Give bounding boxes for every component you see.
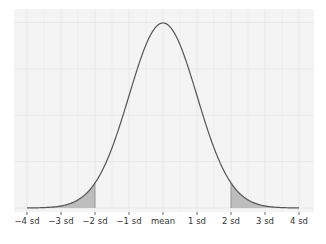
x-tick-label: 2 sd <box>222 216 240 226</box>
x-tick-label: 3 sd <box>256 216 274 226</box>
x-tick-label: −2 sd <box>82 216 107 226</box>
normal-distribution-chart: −4 sd−3 sd−2 sd−1 sdmean1 sd2 sd3 sd4 sd <box>0 0 326 244</box>
x-tick-label: 1 sd <box>188 216 206 226</box>
x-tick-label: −1 sd <box>116 216 141 226</box>
plot-panel <box>14 9 314 212</box>
x-tick-label: mean <box>151 216 175 226</box>
x-tick-label: 4 sd <box>290 216 308 226</box>
x-tick-label: −4 sd <box>14 216 39 226</box>
x-axis-ticks: −4 sd−3 sd−2 sd−1 sdmean1 sd2 sd3 sd4 sd <box>14 212 308 226</box>
x-tick-label: −3 sd <box>48 216 73 226</box>
